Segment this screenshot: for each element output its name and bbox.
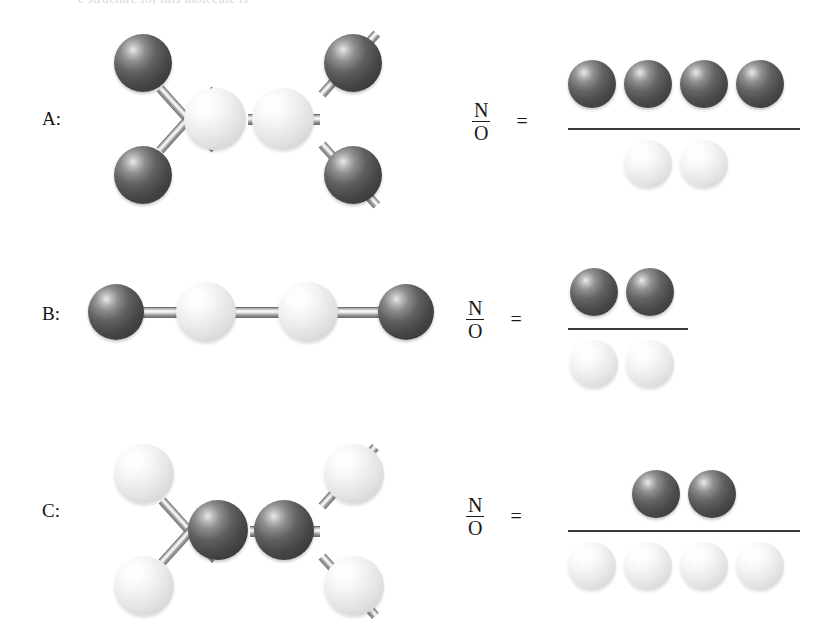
- sphere-dark: [568, 60, 616, 108]
- molecule-diagram-a: [100, 28, 390, 208]
- sphere-light: [624, 140, 672, 188]
- sphere-dark: [624, 60, 672, 108]
- atom-a-terminal-4: [324, 146, 382, 204]
- fraction-no-c: N O: [466, 495, 484, 539]
- molecule-diagram-c: [100, 444, 390, 624]
- sphere-light: [680, 542, 728, 590]
- row-label-c: C:: [42, 500, 60, 522]
- atom-b-central-2: [278, 282, 338, 342]
- sphere-light: [736, 542, 784, 590]
- sphere-ratio-a-numerator: [568, 60, 784, 108]
- sphere-ratio-b-denominator: [570, 340, 674, 388]
- sphere-light: [568, 542, 616, 590]
- atom-c-terminal-2: [114, 556, 174, 616]
- sphere-ratio-c-numerator: [632, 470, 736, 518]
- atom-b-terminal-1: [88, 284, 144, 340]
- molecule-diagram-b: [88, 282, 394, 344]
- sphere-ratio-b-numerator: [570, 268, 674, 316]
- fraction-denominator-c: O: [466, 518, 484, 538]
- atom-b-central-1: [176, 282, 236, 342]
- atom-c-terminal-1: [114, 444, 174, 504]
- sphere-dark: [688, 470, 736, 518]
- sphere-fraction-bar-b: [568, 328, 688, 330]
- equals-sign-a: =: [516, 110, 527, 133]
- sphere-ratio-a: [568, 60, 808, 200]
- fraction-no-b: N O: [466, 298, 484, 342]
- fraction-numerator-b: N: [466, 298, 484, 318]
- ratio-expression-a: N O =: [472, 100, 528, 144]
- fraction-denominator-a: O: [472, 123, 490, 143]
- sphere-light: [680, 140, 728, 188]
- sphere-fraction-bar-a: [568, 128, 800, 130]
- atom-c-terminal-4: [324, 556, 384, 616]
- sphere-ratio-c-denominator: [568, 542, 784, 590]
- sphere-ratio-a-denominator: [624, 140, 728, 188]
- fraction-denominator-b: O: [466, 321, 484, 341]
- sphere-ratio-b: [570, 268, 710, 398]
- atom-a-terminal-2: [114, 146, 172, 204]
- sphere-dark: [680, 60, 728, 108]
- sphere-light: [570, 340, 618, 388]
- equals-sign-c: =: [510, 505, 521, 528]
- sphere-dark: [736, 60, 784, 108]
- atom-c-terminal-3: [324, 444, 384, 504]
- sphere-dark: [570, 268, 618, 316]
- fraction-numerator-c: N: [466, 495, 484, 515]
- atom-a-terminal-1: [114, 34, 172, 92]
- row-label-b: B:: [42, 303, 60, 325]
- equals-sign-b: =: [510, 308, 521, 331]
- fraction-numerator-a: N: [472, 100, 490, 120]
- sphere-dark: [626, 268, 674, 316]
- atom-a-terminal-3: [324, 34, 382, 92]
- atom-a-central-2: [252, 88, 314, 150]
- sphere-dark: [632, 470, 680, 518]
- atom-a-central-1: [184, 88, 246, 150]
- cropped-header-text: e structure for this molecule is: [78, 0, 378, 5]
- sphere-light: [624, 542, 672, 590]
- ratio-expression-b: N O =: [466, 298, 522, 342]
- atom-c-central-1: [188, 500, 248, 560]
- sphere-fraction-bar-c: [568, 530, 800, 532]
- atom-b-terminal-2: [378, 284, 434, 340]
- fraction-no-a: N O: [472, 100, 490, 144]
- ratio-expression-c: N O =: [466, 495, 522, 539]
- row-label-a: A:: [42, 108, 61, 130]
- sphere-light: [626, 340, 674, 388]
- atom-c-central-2: [254, 500, 314, 560]
- sphere-ratio-c: [568, 470, 808, 610]
